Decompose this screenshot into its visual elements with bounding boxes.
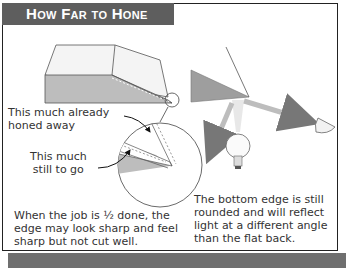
caption-left: When the job is ½ done, the edge may loo…	[14, 209, 178, 248]
magnified-edge-detail	[110, 120, 202, 207]
label-still-to-go: This much still to go	[30, 150, 87, 176]
label-already-honed: This much already honed away	[8, 106, 109, 132]
lightbulb-icon	[226, 134, 250, 169]
reflection-diagram	[191, 47, 335, 169]
caption-right: The bottom edge is still rounded and wil…	[194, 193, 327, 245]
eye-icon	[315, 118, 335, 133]
blade-drawing	[45, 45, 172, 103]
